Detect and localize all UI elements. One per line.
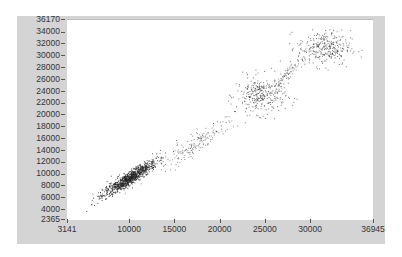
x-tick-label: 36945 — [361, 224, 385, 234]
y-tick-label: 12000 — [36, 157, 65, 166]
x-tick-label: 20000 — [208, 224, 232, 234]
plot-area — [67, 19, 373, 220]
y-tick-label: 16000 — [36, 134, 65, 143]
scatter-points — [67, 20, 373, 220]
x-tick-mark — [220, 219, 221, 223]
y-tick-label: 8000 — [41, 181, 65, 190]
y-tick-label: 28000 — [36, 63, 65, 72]
y-tick-label: 32000 — [36, 39, 65, 48]
y-tick-label: 30000 — [36, 51, 65, 60]
y-tick-label: 20000 — [36, 110, 65, 119]
y-tick-label: 4000 — [41, 205, 65, 214]
y-tick-label: 6000 — [41, 193, 65, 202]
x-tick-mark — [129, 219, 130, 223]
y-tick-label: 2365 — [41, 215, 65, 224]
x-tick-label: 25000 — [253, 224, 277, 234]
x-tick-label: 10000 — [117, 224, 141, 234]
x-tick-mark — [174, 219, 175, 223]
x-tick-mark — [373, 219, 374, 223]
y-tick-label: 24000 — [36, 87, 65, 96]
x-tick-label: 15000 — [163, 224, 187, 234]
x-tick-label: 3141 — [58, 224, 77, 234]
x-tick-mark — [67, 219, 68, 223]
x-tick-mark — [265, 219, 266, 223]
y-tick-label: 14000 — [36, 146, 65, 155]
y-tick-label: 18000 — [36, 122, 65, 131]
x-tick-mark — [310, 219, 311, 223]
x-tick-label: 30000 — [298, 224, 322, 234]
y-tick-label: 22000 — [36, 98, 65, 107]
y-tick-label: 34000 — [36, 27, 65, 36]
y-tick-label: 10000 — [36, 169, 65, 178]
y-tick-label: 36170 — [36, 15, 65, 24]
y-tick-label: 26000 — [36, 75, 65, 84]
